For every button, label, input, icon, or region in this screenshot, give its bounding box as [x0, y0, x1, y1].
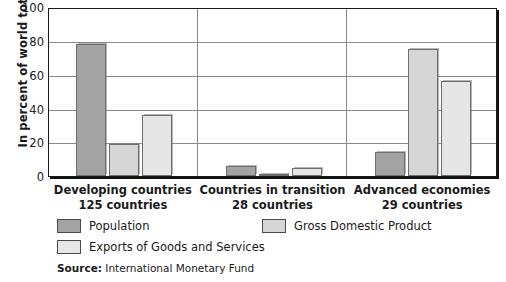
y-axis-tick-labels: 100 80 60 40 20 0: [0, 0, 44, 182]
bar: [142, 115, 172, 176]
category-name: Advanced economies: [354, 183, 491, 197]
source-prefix: Source:: [57, 262, 102, 274]
legend-label-gross-domestic-product: Gross Domestic Product: [294, 218, 432, 234]
bar: [226, 166, 256, 176]
group-separator-1: [197, 9, 198, 176]
y-tick-60: 60: [2, 71, 44, 83]
legend-swatch-exports-of-goods-and-services: [57, 240, 81, 254]
bar: [375, 152, 405, 176]
y-tick-40: 40: [2, 105, 44, 117]
bar: [109, 144, 139, 176]
category-count: 29 countries: [347, 198, 497, 213]
bar: [408, 49, 438, 176]
legend-swatch-gross-domestic-product: [262, 219, 286, 233]
x-axis-category-labels: Developing countries125 countriesCountri…: [48, 183, 497, 213]
legend-label-exports-of-goods-and-services: Exports of Goods and Services: [89, 239, 265, 255]
y-tick-0: 0: [2, 172, 44, 184]
bar: [76, 44, 106, 176]
plot-area: [48, 8, 497, 177]
gridline-80: [49, 42, 496, 43]
y-tick-20: 20: [2, 138, 44, 150]
group-separator-2: [346, 9, 347, 176]
bar: [441, 81, 471, 176]
y-tick-100: 100: [2, 3, 44, 15]
bar: [259, 174, 289, 176]
legend-swatch-population: [57, 219, 81, 233]
category-name: Countries in transition: [199, 183, 345, 197]
x-axis-category-label: Advanced economies29 countries: [347, 183, 497, 212]
legend-label-population: Population: [89, 218, 149, 234]
x-axis-category-label: Countries in transition28 countries: [198, 183, 348, 212]
source-text: International Monetary Fund: [102, 262, 254, 274]
category-count: 125 countries: [48, 198, 198, 213]
category-name: Developing countries: [54, 183, 192, 197]
source-note: Source: International Monetary Fund: [57, 262, 254, 275]
x-axis-category-label: Developing countries125 countries: [48, 183, 198, 212]
category-count: 28 countries: [198, 198, 348, 213]
bar: [292, 168, 322, 176]
bar-chart-figure: In percent of world total 100 80 60 40 2…: [0, 0, 506, 282]
chart-legend: Population Gross Domestic Product Export…: [0, 218, 506, 256]
y-tick-80: 80: [2, 37, 44, 49]
